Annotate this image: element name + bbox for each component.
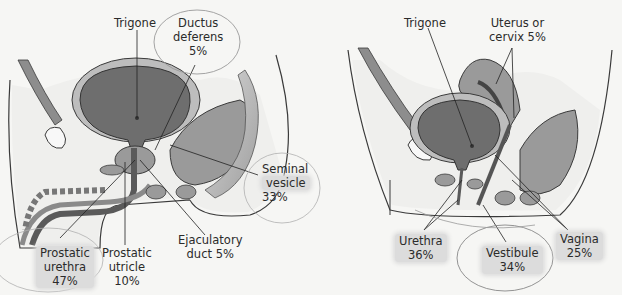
label-prostatic-utricle: Prostatic utricle 10% <box>102 246 152 288</box>
label-male-trigone: Trigone <box>114 16 156 30</box>
male-gland-1 <box>100 165 124 175</box>
female-gland-1 <box>435 174 455 186</box>
anatomy-diagram: Trigone Ductus deferens 5% Seminal vesic… <box>0 0 622 295</box>
label-ejaculatory-duct: Ejaculatory duct 5% <box>178 233 242 261</box>
female-gland-3 <box>495 191 515 205</box>
female-vestibule-leader <box>483 205 506 242</box>
female-curve-mark <box>415 210 535 228</box>
label-vagina: Vagina 25% <box>556 232 603 260</box>
male-gland-3 <box>176 185 196 199</box>
label-female-urethra: Urethra 36% <box>395 234 447 262</box>
label-female-trigone: Trigone <box>404 16 446 30</box>
label-prostatic-urethra: Prostatic urethra 47% <box>36 246 94 288</box>
label-seminal-vesicle: Seminal vesicle 33% <box>262 162 310 204</box>
label-vestibule: Vestibule 34% <box>482 246 543 274</box>
label-uterus-cervix: Uterus or cervix 5% <box>489 16 546 44</box>
label-ductus-deferens: Ductus deferens 5% <box>173 16 223 58</box>
female-gland-2 <box>467 179 483 189</box>
